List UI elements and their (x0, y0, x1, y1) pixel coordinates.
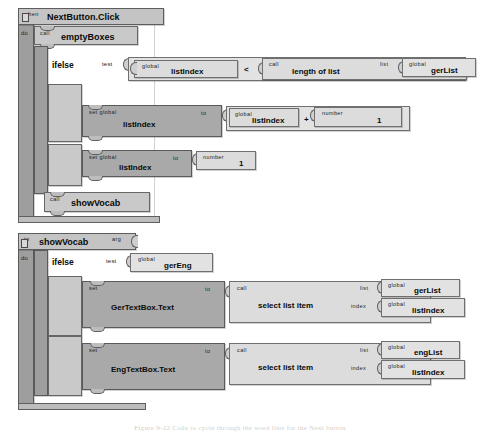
set-global-listindex-block-1[interactable]: set global listIndex to (82, 105, 222, 137)
gerlist-global-name: gerList (431, 67, 458, 75)
ifelse2-label: ifelse (52, 258, 74, 267)
less-than-operator: < (244, 66, 249, 74)
ifelse2-test-label: test (106, 258, 116, 264)
ifelse1-spine (34, 46, 48, 194)
get-global-listindex-block-1[interactable]: global listIndex (134, 60, 238, 78)
set-to-label-2: to (173, 156, 178, 162)
set-global-name-2: listIndex (119, 164, 151, 172)
global-name-label: listIndex (171, 68, 203, 76)
number-value-2: 1 (239, 160, 243, 168)
gereng-global-name: gerEng (164, 262, 192, 270)
ifelse1-test-label: test (102, 61, 112, 67)
number-keyword-1: number (322, 111, 343, 117)
gerlist-global-keyword-2: global (388, 283, 405, 289)
set-gertextbox-name: GerTextBox.Text (111, 304, 174, 312)
procedure-arg-plug (131, 235, 138, 248)
get-global-gerlist-block-2[interactable]: global gerList (381, 279, 460, 297)
number-block-2[interactable]: number 1 (196, 151, 256, 170)
ifelse1-then-slot (48, 84, 82, 142)
set-to-label-engtextbox: to (205, 349, 210, 355)
procedure-name-label: showVocab (39, 238, 88, 247)
procedure-block-footer (18, 403, 146, 410)
set-engtextbox-text-block[interactable]: set EngTextBox.Text to (82, 343, 225, 390)
set-engtextbox-name: EngTextBox.Text (111, 366, 175, 374)
procedure-arg-label: arg (112, 237, 121, 243)
englist-global-keyword: global (388, 345, 405, 351)
set-gertextbox-text-block[interactable]: set GerTextBox.Text to (82, 281, 225, 328)
procedure-block-spine (18, 248, 34, 406)
length-list-socket-label: list (380, 62, 388, 68)
select-list-socket-label-2: list (360, 348, 368, 354)
call-keyword: call (40, 31, 50, 37)
set-global-keyword-2: set global (89, 155, 117, 161)
length-call-keyword: call (269, 62, 279, 68)
call-showvocab-label: showVocab (71, 199, 120, 208)
listindex-plug-1 (130, 62, 137, 75)
blocks-editor-canvas: when NextButton.Click do call emptyBoxes… (0, 0, 480, 437)
global-keyword: global (142, 64, 159, 70)
get-global-listindex-block-3[interactable]: global listIndex (381, 298, 465, 317)
get-global-gerlist-block-1[interactable]: global gerList (402, 58, 476, 77)
number-block-1[interactable]: number 1 (314, 107, 402, 127)
number-keyword-2: number (203, 155, 224, 161)
gerlist-global-name-2: gerList (414, 287, 441, 295)
listindex-global-name-2: listIndex (412, 307, 444, 315)
select-index-socket-label-2: index (351, 366, 366, 372)
event-do-label: do (21, 30, 28, 36)
gereng-global-keyword: global (138, 257, 155, 263)
select-call-keyword-1: call (237, 286, 247, 292)
set-global-name-1: listIndex (123, 121, 155, 129)
to-showvocab-procedure-block[interactable]: to showVocab arg (18, 233, 136, 250)
when-nextbutton-click-block[interactable]: when NextButton.Click (18, 8, 164, 25)
figure-caption: Figure 9-22 Code to cycle through the wo… (0, 424, 480, 432)
set-to-label-gertextbox: to (205, 287, 210, 293)
plus-left-global-name: listIndex (252, 117, 284, 125)
event-mutator-icon[interactable] (22, 13, 29, 22)
ifelse1-else-slot (48, 144, 82, 186)
set-keyword-engtextbox: set (89, 348, 98, 354)
length-of-list-label: length of list (292, 68, 340, 76)
get-global-listindex-block-4[interactable]: global listIndex (381, 360, 465, 379)
select-list-item-label-2: select list item (258, 364, 313, 372)
plus-left-global-keyword: global (235, 112, 252, 118)
event-block-footer (18, 216, 160, 223)
ifelse1-label: ifelse (52, 61, 74, 70)
select-list-item-label-1: select list item (258, 302, 313, 310)
set-global-keyword-1: set global (89, 110, 117, 116)
select-index-socket-label-1: index (351, 304, 366, 310)
get-global-gereng-block[interactable]: global gerEng (130, 253, 213, 272)
event-name-label: NextButton.Click (47, 13, 120, 22)
listindex-global-name-3: listIndex (412, 369, 444, 377)
listindex-global-keyword-3: global (388, 364, 405, 370)
ifelse2-else-slot (48, 336, 82, 396)
englist-global-name: engList (414, 349, 442, 357)
set-engtextbox-bottom-notch (90, 389, 105, 394)
get-global-listindex-block-2[interactable]: global listIndex (229, 108, 299, 127)
set-keyword-gertextbox: set (89, 286, 98, 292)
ifelse2-then-slot (48, 276, 82, 336)
set-gertextbox-bottom-notch (90, 327, 105, 332)
call-emptyboxes-label: emptyBoxes (61, 33, 115, 42)
procedure-mutator-icon[interactable] (21, 239, 28, 248)
gerlist-global-keyword: global (409, 62, 426, 68)
get-global-englist-block[interactable]: global engList (381, 341, 460, 359)
select-list-socket-label-1: list (360, 286, 368, 292)
set-to-label-1: to (201, 111, 206, 117)
select-call-keyword-2: call (237, 348, 247, 354)
listindex-global-keyword-2: global (388, 302, 405, 308)
showvocab-call-keyword: call (50, 197, 60, 203)
procedure-do-label: do (21, 255, 28, 261)
plus-operator: + (304, 116, 309, 124)
ifelse2-spine (34, 250, 48, 396)
number-value-1: 1 (377, 117, 381, 125)
